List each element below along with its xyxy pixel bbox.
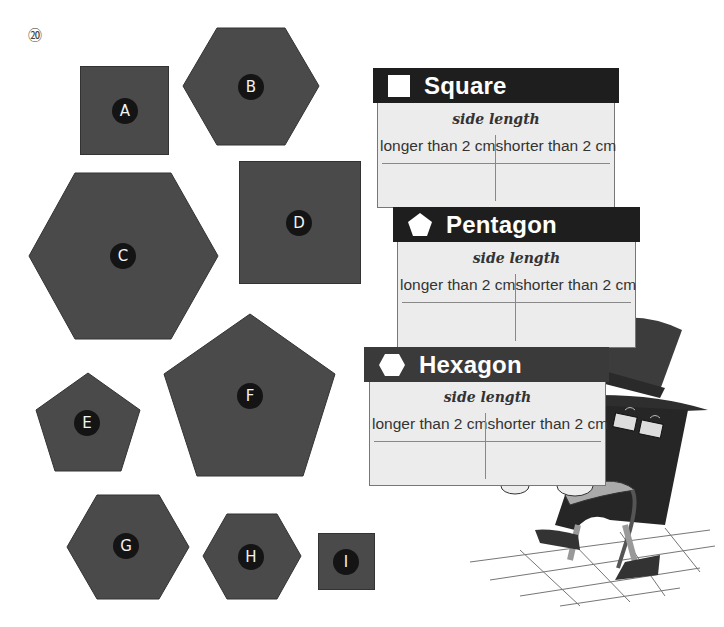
- hexagon-table: side length longer than 2 cm shorter tha…: [369, 380, 606, 486]
- divider: [515, 274, 516, 341]
- divider: [402, 302, 631, 303]
- square-col-shorter: shorter than 2 cm: [495, 137, 616, 155]
- square-table: side length longer than 2 cm shorter tha…: [377, 102, 615, 208]
- shape-label-e: E: [74, 410, 100, 436]
- pentagon-subtitle: side length: [398, 250, 635, 266]
- square-title: Square: [424, 72, 507, 100]
- shape-label-d: D: [286, 210, 312, 236]
- hexagon-subtitle: side length: [370, 389, 605, 405]
- square-header: Square: [373, 68, 619, 103]
- square-subtitle: side length: [378, 111, 614, 127]
- pentagon-col-shorter: shorter than 2 cm: [515, 276, 636, 294]
- hexagon-col-shorter: shorter than 2 cm: [487, 415, 608, 433]
- shape-label-b: B: [238, 74, 264, 100]
- pentagon-title: Pentagon: [446, 211, 557, 239]
- divider: [374, 441, 601, 442]
- square-col-longer: longer than 2 cm: [380, 137, 495, 155]
- divider: [495, 135, 496, 201]
- pentagon-table: side length longer than 2 cm shorter tha…: [397, 241, 636, 348]
- square-icon: [388, 75, 410, 97]
- hexagon-title: Hexagon: [419, 351, 522, 379]
- hexagon-header: Hexagon: [364, 347, 609, 382]
- pentagon-icon: [408, 213, 432, 236]
- shape-label-g: G: [113, 533, 139, 559]
- shape-label-c: C: [110, 243, 136, 269]
- shape-label-f: F: [237, 383, 263, 409]
- pentagon-header: Pentagon: [393, 207, 640, 242]
- shape-label-h: H: [238, 544, 264, 570]
- divider: [382, 163, 610, 164]
- shape-label-i: I: [333, 549, 359, 575]
- divider: [485, 413, 486, 479]
- hexagon-col-longer: longer than 2 cm: [372, 415, 487, 433]
- question-number: ⑳: [28, 24, 42, 44]
- hexagon-icon: [379, 354, 405, 376]
- pentagon-col-longer: longer than 2 cm: [400, 276, 515, 294]
- shape-label-a: A: [112, 98, 138, 124]
